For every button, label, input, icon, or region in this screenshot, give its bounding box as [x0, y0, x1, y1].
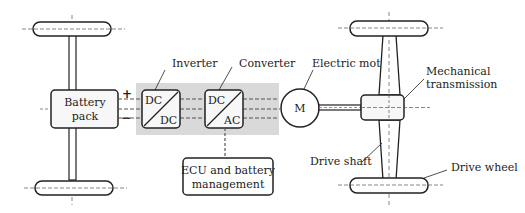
motor-symbol: M — [294, 102, 305, 115]
wheel-top-right — [350, 21, 428, 36]
inverter-block: DC DC — [142, 90, 180, 128]
converter-label: Converter — [239, 57, 296, 70]
converter-top: DC — [208, 94, 225, 107]
converter-bottom: AC — [223, 114, 240, 127]
inverter-top: DC — [145, 94, 162, 107]
inverter-bottom: DC — [160, 114, 177, 127]
drive-wheel-label: Drive wheel — [451, 161, 518, 174]
ecu-label-line2: management — [192, 178, 265, 191]
ecu-block: ECU and battery management — [181, 158, 276, 195]
battery-label-line2: pack — [72, 110, 99, 123]
ecu-label-line1: ECU and battery — [181, 164, 276, 177]
ev-drivetrain-diagram: Battery pack + − DC DC Inverter DC AC Co… — [0, 0, 525, 213]
transmission-label-line2: transmission — [426, 78, 497, 91]
wheel-bottom-right — [350, 178, 428, 193]
electric-motor: M — [281, 89, 319, 127]
drive-shaft-label: Drive shaft — [310, 155, 372, 168]
inverter-label: Inverter — [172, 57, 218, 70]
battery-label-line1: Battery — [64, 96, 106, 109]
converter-block: DC AC — [205, 90, 243, 128]
transmission-label-line1: Mechanical — [426, 65, 491, 78]
left-axle: Battery pack + − — [22, 15, 132, 205]
